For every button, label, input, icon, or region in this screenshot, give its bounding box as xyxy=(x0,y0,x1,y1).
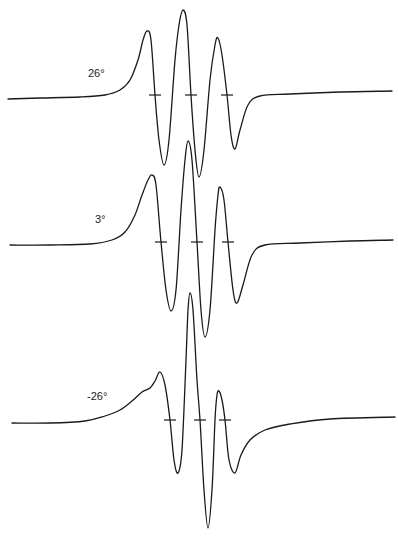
spectrum-line-minus26deg xyxy=(12,293,395,528)
spectra-figure: 26° 3° -26° xyxy=(0,0,398,539)
angle-label-3deg: 3° xyxy=(95,213,106,225)
spectrum-line-26deg xyxy=(8,10,392,177)
angle-label-26deg: 26° xyxy=(88,67,105,79)
trace-minus26deg: -26° xyxy=(12,293,395,528)
angle-label-minus26deg: -26° xyxy=(87,390,107,402)
trace-26deg: 26° xyxy=(8,10,392,177)
